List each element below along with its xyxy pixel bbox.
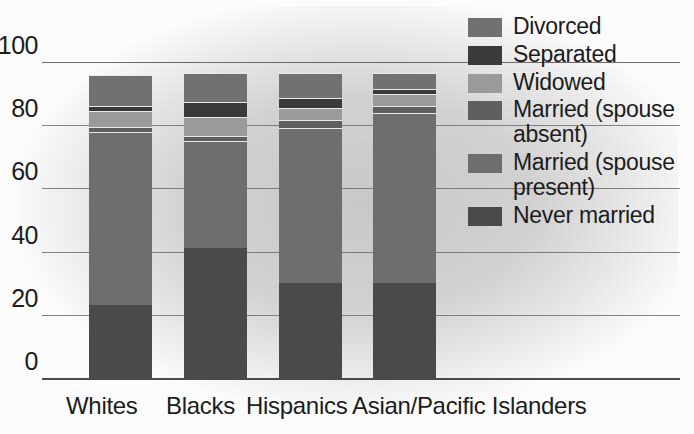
legend-swatch-icon bbox=[468, 46, 502, 65]
bar-segment-married-spouse-present-[interactable] bbox=[89, 132, 152, 306]
x-axis-label-asian-pacific-islanders: Asian/Pacific Islanders bbox=[352, 394, 587, 418]
chart-root: 100806040200WhitesBlacksHispanicsAsian/P… bbox=[0, 0, 694, 434]
bar-segment-divorced[interactable] bbox=[279, 73, 342, 98]
legend-swatch-icon bbox=[468, 207, 502, 226]
y-axis-tick-60: 60 bbox=[0, 159, 38, 184]
bar-segment-separated[interactable] bbox=[89, 106, 152, 111]
bar-segment-never-married[interactable] bbox=[373, 283, 436, 378]
x-axis-baseline bbox=[42, 378, 680, 380]
y-axis-tick-40: 40 bbox=[0, 223, 38, 248]
bar-segment-separated[interactable] bbox=[279, 98, 342, 107]
bar-hispanics[interactable] bbox=[279, 62, 342, 378]
legend-swatch-icon bbox=[468, 18, 502, 37]
bar-segment-divorced[interactable] bbox=[89, 75, 152, 107]
bar-segment-married-spouse-absent-[interactable] bbox=[373, 106, 436, 112]
legend-item-label: Widowed bbox=[513, 70, 606, 95]
bar-whites[interactable] bbox=[89, 62, 152, 378]
y-axis-tick-20: 20 bbox=[0, 286, 38, 311]
legend-swatch-icon bbox=[468, 154, 502, 173]
bar-segment-divorced[interactable] bbox=[373, 73, 436, 89]
legend-item-label: Separated bbox=[513, 42, 616, 67]
y-axis-tick-80: 80 bbox=[0, 96, 38, 121]
bar-segment-never-married[interactable] bbox=[184, 248, 247, 378]
bar-segment-never-married[interactable] bbox=[279, 283, 342, 378]
legend-item-label: Married (spouse absent) bbox=[513, 97, 690, 147]
bar-segment-married-spouse-present-[interactable] bbox=[373, 113, 436, 284]
legend-item-married-spouse-absent-[interactable]: Married (spouse absent) bbox=[468, 97, 690, 147]
legend-item-widowed[interactable]: Widowed bbox=[468, 70, 690, 95]
bar-segment-married-spouse-present-[interactable] bbox=[184, 141, 247, 248]
bar-segment-widowed[interactable] bbox=[184, 117, 247, 136]
legend-item-married-spouse-present-[interactable]: Married (spouse present) bbox=[468, 150, 690, 200]
bar-segment-married-spouse-absent-[interactable] bbox=[184, 136, 247, 141]
bar-segment-widowed[interactable] bbox=[279, 108, 342, 121]
y-axis-tick-0: 0 bbox=[0, 349, 38, 374]
x-axis-label-blacks: Blacks bbox=[166, 394, 235, 418]
legend-item-never-married[interactable]: Never married bbox=[468, 203, 690, 228]
legend-item-label: Never married bbox=[513, 203, 655, 228]
legend-item-separated[interactable]: Separated bbox=[468, 42, 690, 67]
bar-segment-separated[interactable] bbox=[184, 102, 247, 118]
bar-blacks[interactable] bbox=[184, 62, 247, 378]
legend-item-label: Married (spouse present) bbox=[513, 150, 690, 200]
bar-segment-married-spouse-present-[interactable] bbox=[279, 128, 342, 283]
x-axis-label-whites: Whites bbox=[66, 394, 138, 418]
bar-segment-married-spouse-absent-[interactable] bbox=[279, 120, 342, 128]
legend-swatch-icon bbox=[468, 74, 502, 93]
bar-segment-divorced[interactable] bbox=[184, 73, 247, 101]
legend-item-divorced[interactable]: Divorced bbox=[468, 14, 690, 39]
x-axis-label-hispanics: Hispanics bbox=[246, 394, 347, 418]
bar-segment-married-spouse-absent-[interactable] bbox=[89, 127, 152, 132]
bar-segment-widowed[interactable] bbox=[373, 94, 436, 107]
bar-segment-separated[interactable] bbox=[373, 89, 436, 94]
chart-legend: DivorcedSeparatedWidowedMarried (spouse … bbox=[468, 14, 690, 231]
legend-swatch-icon bbox=[468, 101, 502, 120]
bar-segment-never-married[interactable] bbox=[89, 305, 152, 378]
bar-asian-pacific-islanders[interactable] bbox=[373, 62, 436, 378]
legend-item-label: Divorced bbox=[513, 14, 601, 39]
bar-segment-widowed[interactable] bbox=[89, 111, 152, 127]
y-axis-tick-100: 100 bbox=[0, 33, 38, 58]
